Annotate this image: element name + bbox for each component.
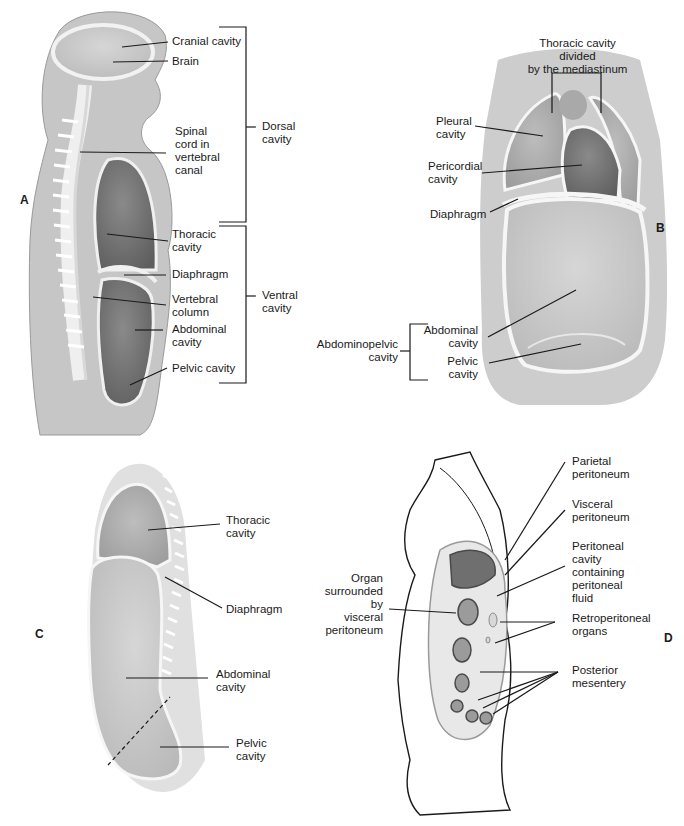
panel-letter-b: B xyxy=(656,221,665,235)
panel-d-drawing xyxy=(398,452,511,815)
label-visceral-peritoneum: Visceral peritoneum xyxy=(572,498,630,524)
label-brain: Brain xyxy=(172,55,199,68)
label-organ-surrounded: Organ surrounded by visceral peritoneum xyxy=(315,572,383,637)
panel-letter-c: C xyxy=(35,627,44,641)
panel-a-drawing xyxy=(29,12,172,435)
panel-b-drawing xyxy=(480,49,667,405)
label-abdominal-cavity-c: Abdominal cavity xyxy=(216,668,270,694)
label-thoracic-cavity-c: Thoracic cavity xyxy=(226,514,270,540)
panel-letter-a: A xyxy=(20,193,29,207)
label-diaphragm-b: Diaphragm xyxy=(430,208,486,221)
label-diaphragm-c: Diaphragm xyxy=(226,603,282,616)
label-pericordial-cavity: Pericordial cavity xyxy=(428,160,482,186)
label-vertebral-column: Vertebral column xyxy=(172,293,218,319)
anatomy-illustration xyxy=(0,0,684,826)
label-abdominopelvic-cavity: Abdominopelvic cavity xyxy=(310,338,398,364)
label-dorsal-cavity: Dorsal cavity xyxy=(262,120,295,146)
label-pelvic-cavity-a: Pelvic cavity xyxy=(172,362,235,375)
label-parietal-peritoneum: Parietal peritoneum xyxy=(572,455,630,481)
label-retroperitoneal-organs: Retroperitoneal organs xyxy=(572,612,651,638)
label-diaphragm-a: Diaphragm xyxy=(172,268,228,281)
label-ventral-cavity: Ventral cavity xyxy=(262,289,298,315)
label-pleural-cavity: Pleural cavity xyxy=(436,115,472,141)
label-spinal-cord: Spinal cord in vertebral canal xyxy=(175,125,220,177)
label-thoracic-divided: Thoracic cavity divided by the mediastin… xyxy=(520,37,635,76)
label-thoracic-cavity-a: Thoracic cavity xyxy=(172,228,216,254)
panel-letter-d: D xyxy=(664,631,673,645)
label-pelvic-cavity-b: Pelvic cavity xyxy=(420,355,478,381)
label-cranial-cavity: Cranial cavity xyxy=(172,35,241,48)
label-abdominal-cavity-b: Abdominal cavity xyxy=(420,324,478,350)
label-peritoneal-cavity: Peritoneal cavity containing peritoneal … xyxy=(572,540,624,605)
label-abdominal-cavity-a: Abdominal cavity xyxy=(172,323,226,349)
panel-c-drawing xyxy=(89,464,205,792)
label-pelvic-cavity-c: Pelvic cavity xyxy=(236,737,267,763)
label-posterior-mesentery: Posterior mesentery xyxy=(572,664,626,690)
